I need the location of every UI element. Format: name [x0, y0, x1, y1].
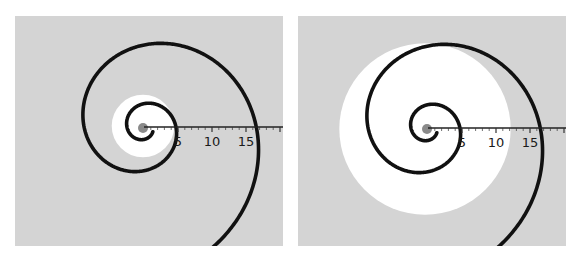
spiral-diagram-right: 5 10 15	[298, 16, 566, 246]
tick-label-5: 5	[458, 135, 466, 150]
tick-label-15: 15	[238, 134, 255, 149]
tick-label-10: 10	[204, 134, 221, 149]
spiral-panel-right: 5 10 15	[298, 16, 566, 246]
spiral-core	[422, 124, 432, 134]
tick-label-10: 10	[488, 135, 505, 150]
tick-label-15: 15	[522, 135, 539, 150]
spiral-curve	[83, 43, 259, 246]
spiral-core	[138, 123, 148, 133]
spiral-diagram-left: 5 10 15	[15, 16, 283, 246]
spiral-panel-left: 5 10 15	[15, 16, 283, 246]
tick-label-5: 5	[174, 134, 182, 149]
